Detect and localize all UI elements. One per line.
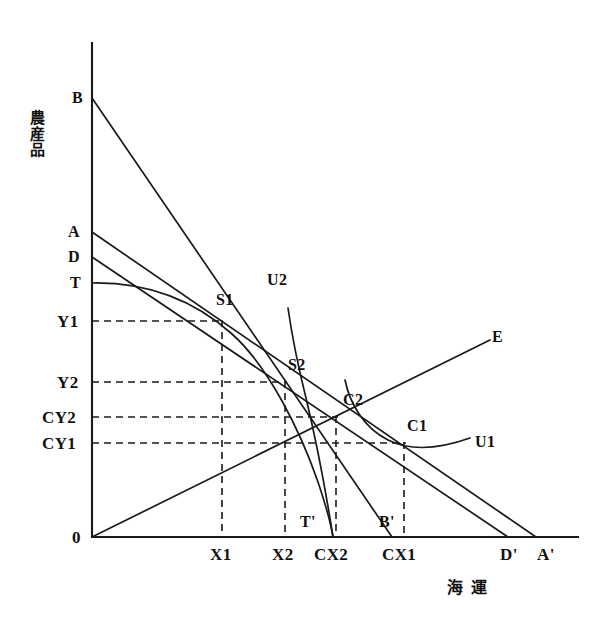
y-tick-label-D: D: [68, 249, 80, 265]
y-tick-label-T: T: [70, 275, 81, 291]
point-label-S2: S2: [288, 357, 306, 373]
curve-label-U1: U1: [475, 434, 495, 450]
point-label-Tprime: T': [300, 514, 316, 530]
y-tick-label-Y1: Y1: [57, 313, 79, 330]
x-tick-label-Aprime: A': [537, 546, 555, 563]
x-tick-label-CX2: CX2: [314, 546, 348, 563]
origin-label: 0: [72, 529, 81, 546]
y-tick-label-A: A: [68, 224, 80, 240]
y-tick-label-B: B: [72, 90, 83, 106]
curve-label-U2: U2: [267, 272, 287, 288]
line-A-Aprime: [92, 232, 536, 537]
point-label-C1: C1: [407, 418, 427, 434]
point-label-Bprime: B': [379, 514, 395, 530]
line-D-Dprime: [92, 257, 508, 537]
x-tick-label-CX1: CX1: [382, 546, 416, 563]
y-axis-title: 農産品: [28, 110, 43, 158]
line-B-Bprime: [92, 98, 392, 537]
y-tick-label-Y2: Y2: [57, 374, 79, 391]
curve-U2: [288, 308, 333, 537]
point-label-S1: S1: [216, 292, 234, 308]
point-label-C2: C2: [343, 392, 363, 408]
x-tick-label-Dprime: D': [500, 546, 518, 563]
curve-U1: [345, 380, 470, 447]
x-tick-label-X2: X2: [272, 546, 294, 563]
economics-diagram: [0, 0, 616, 638]
x-axis-title: 海 運: [447, 580, 489, 596]
x-tick-label-X1: X1: [210, 546, 232, 563]
figure-root: B A D T Y1 Y2 CY2 CY1 0 X1 X2 CX2 CX1 D'…: [0, 0, 616, 638]
y-tick-label-CY1: CY1: [42, 435, 76, 452]
y-tick-label-CY2: CY2: [42, 409, 76, 426]
curve-label-E: E: [492, 329, 503, 345]
